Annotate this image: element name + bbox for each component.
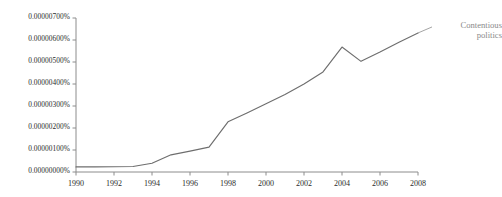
- x-axis-ticks: [76, 172, 418, 176]
- x-axis-tick-label: 1996: [170, 179, 210, 188]
- x-axis-tick-label: 2004: [322, 179, 362, 188]
- series-label-leader-group: [418, 27, 432, 33]
- series-label-contentious-politics: Contentious politics: [436, 20, 502, 41]
- y-axis-tick-label: 0.00000000%: [28, 167, 70, 175]
- y-axis-tick-label: 0.00000500%: [28, 57, 70, 65]
- y-axis-tick-label: 0.00000300%: [28, 101, 70, 109]
- series-line-contentious-politics: [76, 33, 418, 167]
- x-axis-tick-label: 2002: [284, 179, 324, 188]
- y-axis-tick-label: 0.00000100%: [28, 145, 70, 153]
- y-axis-ticks: [73, 18, 77, 172]
- y-axis-tick-label: 0.00000200%: [28, 123, 70, 131]
- x-axis-tick-label: 2006: [360, 179, 400, 188]
- x-axis-tick-label: 2000: [246, 179, 286, 188]
- chart-axes: [73, 18, 419, 176]
- y-axis-tick-label: 0.00000700%: [28, 13, 70, 21]
- x-axis-tick-label: 2008: [398, 179, 438, 188]
- y-axis-tick-label: 0.00000600%: [28, 35, 70, 43]
- x-axis-tick-label: 1994: [132, 179, 172, 188]
- x-axis-tick-label: 1992: [94, 179, 134, 188]
- series-label-leader-line: [418, 27, 432, 33]
- y-axis-tick-label: 0.00000400%: [28, 79, 70, 87]
- chart-series-group: [76, 33, 418, 167]
- x-axis-tick-label: 1990: [56, 179, 96, 188]
- x-axis-tick-label: 1998: [208, 179, 248, 188]
